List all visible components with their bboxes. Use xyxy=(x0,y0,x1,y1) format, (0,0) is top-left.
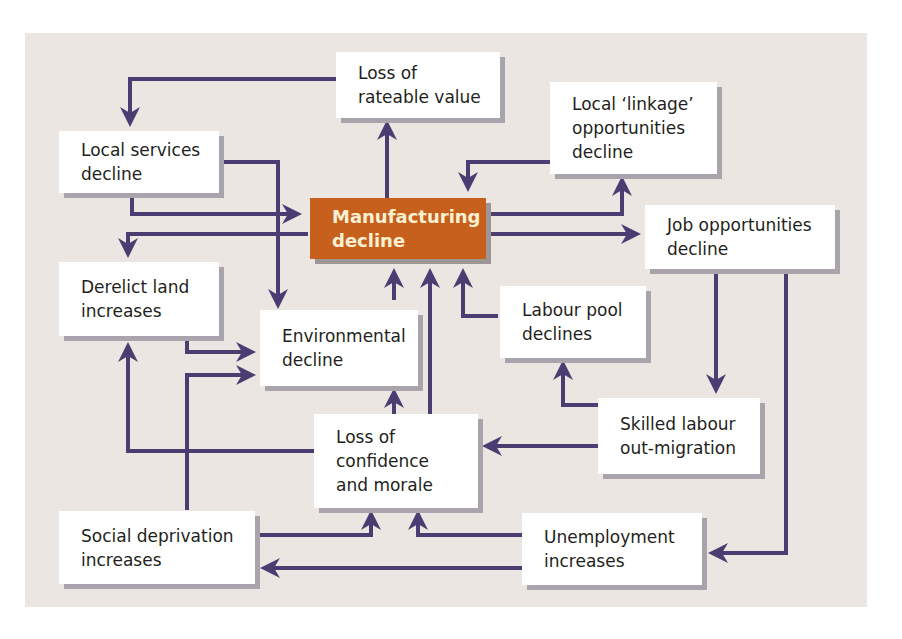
node-job-opportunities-decline: Job opportunities decline xyxy=(645,205,835,269)
node-loss-of-rateable-value: Loss of rateable value xyxy=(336,52,500,118)
node-social-deprivation-increases: Social deprivation increases xyxy=(59,511,255,584)
node-unemployment-increases: Unemployment increases xyxy=(522,513,702,585)
node-label: Skilled labour out-migration xyxy=(620,412,736,460)
node-loss-of-confidence-and-morale: Loss of confidence and morale xyxy=(314,414,478,508)
node-label: Loss of rateable value xyxy=(358,61,481,109)
node-skilled-labour-out-migration: Skilled labour out-migration xyxy=(598,398,760,474)
node-label: Job opportunities decline xyxy=(667,213,812,261)
node-labour-pool-declines: Labour pool declines xyxy=(500,286,646,358)
node-derelict-land-increases: Derelict land increases xyxy=(59,262,219,336)
node-label: Derelict land increases xyxy=(81,275,189,323)
node-label: Local ‘linkage’ opportunities decline xyxy=(572,92,694,164)
node-local-services-decline: Local services decline xyxy=(59,131,219,193)
node-label: Local services decline xyxy=(81,138,200,186)
node-label: Labour pool declines xyxy=(522,298,623,346)
node-manufacturing-decline: Manufacturing decline xyxy=(310,198,486,259)
node-label: Unemployment increases xyxy=(544,525,675,573)
node-label: Manufacturing decline xyxy=(332,205,481,253)
node-label: Environmental decline xyxy=(282,324,406,372)
node-label: Loss of confidence and morale xyxy=(336,425,433,497)
node-label: Social deprivation increases xyxy=(81,524,234,572)
node-environmental-decline: Environmental decline xyxy=(260,310,418,386)
node-local-linkage-opportunities-decline: Local ‘linkage’ opportunities decline xyxy=(550,82,717,174)
